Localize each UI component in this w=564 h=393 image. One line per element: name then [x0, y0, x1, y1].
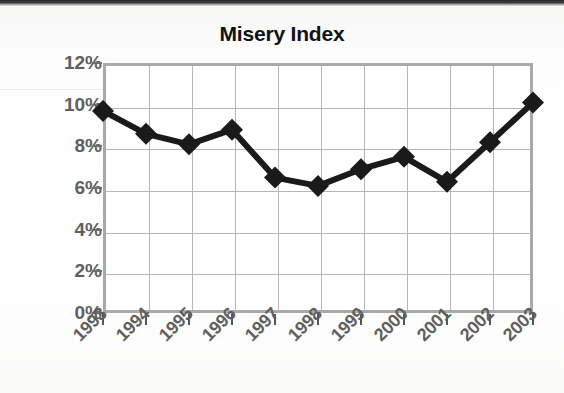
- gridline-vertical: [278, 66, 279, 310]
- y-axis-tick-label: 8%: [16, 135, 102, 157]
- y-axis-tick-mark: [92, 270, 102, 272]
- y-axis-tick-label: 2%: [16, 260, 102, 282]
- gridline-horizontal: [106, 108, 530, 109]
- gridline-vertical: [450, 66, 451, 310]
- gridline-vertical: [321, 66, 322, 310]
- gridline-horizontal: [106, 274, 530, 275]
- gridline-vertical: [192, 66, 193, 310]
- gridline-vertical: [235, 66, 236, 310]
- y-axis-tick-mark: [92, 104, 102, 106]
- gridline-vertical: [364, 66, 365, 310]
- gridline-horizontal: [106, 191, 530, 192]
- gridline-vertical: [407, 66, 408, 310]
- y-axis-tick-mark: [92, 229, 102, 231]
- y-axis-tick-mark: [92, 187, 102, 189]
- y-axis-tick-label: 6%: [16, 177, 102, 199]
- gridline-horizontal: [106, 149, 530, 150]
- gridline-horizontal: [106, 233, 530, 234]
- chart-page: Misery Index 0%2%4%6%8%10%12% 1993199419…: [0, 0, 564, 393]
- y-axis-tick-label: 4%: [16, 219, 102, 241]
- y-axis-tick-mark: [92, 145, 102, 147]
- gridline-vertical: [149, 66, 150, 310]
- gridline-vertical: [493, 66, 494, 310]
- y-axis-tick-mark: [92, 62, 102, 64]
- y-axis-tick-label: 12%: [16, 52, 102, 74]
- y-axis-tick-label: 10%: [16, 94, 102, 116]
- plot-area: [103, 63, 533, 313]
